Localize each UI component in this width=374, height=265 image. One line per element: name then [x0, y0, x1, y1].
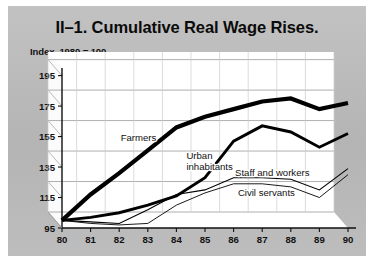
x-axis-label: 90 [343, 234, 354, 245]
y-axis-label: 95 [44, 223, 55, 234]
series-label: Civil servants [238, 187, 295, 198]
y-axis-label: 115 [40, 192, 56, 203]
series-label: Farmers [121, 132, 157, 143]
figure-frame: II–1. Cumulative Real Wage Rises. Index,… [0, 0, 374, 265]
series-label: Staff and workers [235, 167, 310, 178]
x-axis-label: 86 [228, 234, 239, 245]
x-axis-label: 89 [314, 234, 325, 245]
series-label: inhabitants [186, 161, 233, 172]
series-label: Urban [186, 150, 212, 161]
x-axis-label: 88 [285, 234, 296, 245]
line-chart: 951151351551751958081828384858687888990F… [8, 6, 366, 256]
x-axis-label: 87 [257, 234, 268, 245]
x-axis-label: 85 [200, 234, 211, 245]
y-axis-label: 175 [39, 101, 56, 112]
y-axis-label: 155 [39, 131, 56, 142]
y-axis-label: 135 [39, 162, 56, 173]
x-axis-label: 80 [57, 234, 68, 245]
x-axis-label: 84 [171, 234, 182, 245]
x-axis-label: 83 [142, 234, 153, 245]
x-axis-label: 81 [85, 234, 96, 245]
chart-canvas: 951151351551751958081828384858687888990F… [8, 6, 366, 256]
figure-plate: II–1. Cumulative Real Wage Rises. Index,… [8, 6, 366, 256]
y-axis-label: 195 [39, 70, 56, 81]
x-axis-label: 82 [114, 234, 125, 245]
